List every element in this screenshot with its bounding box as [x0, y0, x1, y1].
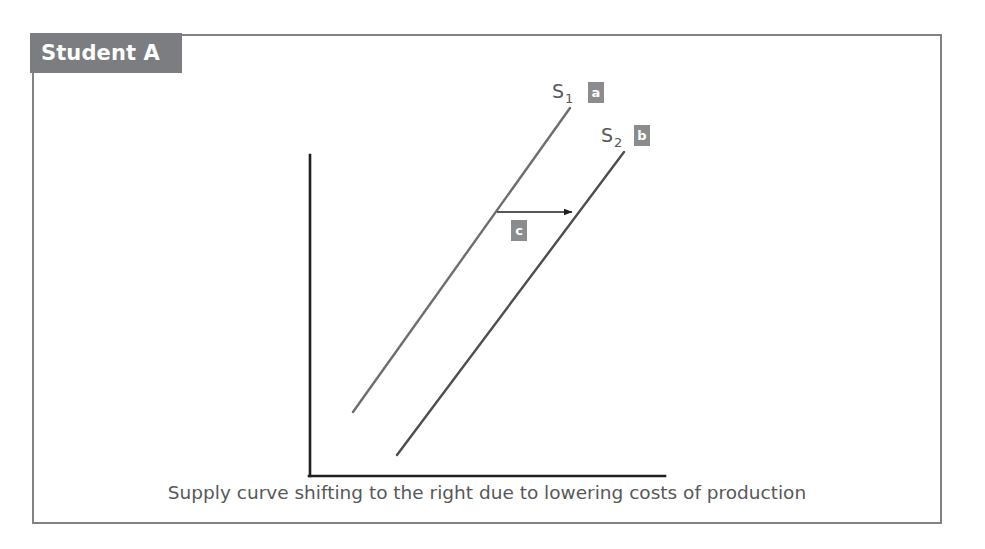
student-label-banner: Student A: [30, 33, 182, 73]
badge-a: a: [588, 82, 604, 103]
badge-c-text: c: [515, 224, 523, 237]
worksheet-card: [32, 34, 942, 524]
badge-a-text: a: [592, 86, 601, 99]
curve-label-s2: S2: [601, 126, 622, 149]
student-label-text: Student A: [41, 43, 160, 64]
curve-label-s1: S1: [552, 82, 573, 105]
curve-label-s2-subscript: 2: [613, 135, 622, 150]
curve-label-s2-base: S: [601, 124, 613, 146]
curve-label-s1-subscript: 1: [564, 91, 573, 106]
badge-b-text: b: [637, 129, 646, 142]
badge-b: b: [634, 125, 650, 146]
curve-label-s1-base: S: [552, 80, 564, 102]
diagram-caption: Supply curve shifting to the right due t…: [32, 483, 942, 503]
badge-c: c: [511, 220, 527, 241]
